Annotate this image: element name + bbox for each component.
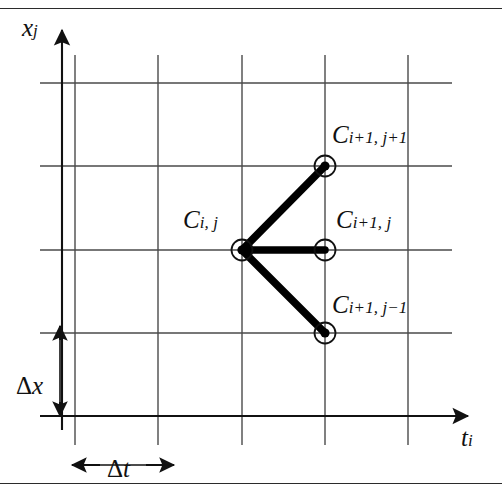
connector-up [242, 166, 325, 250]
node-label-c-i1-j1: Ci+1, j+1 [332, 121, 407, 149]
axis-label-x: xj [22, 14, 38, 42]
axis-label-t: ti [461, 424, 473, 452]
node-label-c-i1-jm1: Ci+1, j−1 [332, 291, 407, 319]
delta-x-label: Δx [16, 372, 43, 400]
finite-difference-stencil-figure: Ci, j Ci+1, j+1 Ci+1, j Ci+1, j−1 xj ti … [0, 0, 502, 490]
diagram-canvas [0, 0, 502, 490]
node-label-c-i1-j: Ci+1, j [336, 206, 391, 234]
connector-down [242, 250, 325, 333]
node-label-c-ij: Ci, j [183, 206, 218, 234]
delta-t-label: Δt [107, 455, 130, 483]
stencil-connectors [242, 166, 325, 333]
